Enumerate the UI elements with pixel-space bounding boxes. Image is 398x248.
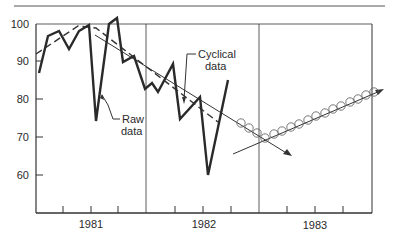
raw-data-label-line1: Raw: [122, 113, 144, 125]
raw-data-line: [39, 18, 228, 175]
forecast-circles: [237, 88, 378, 142]
rising-trend-arrowhead: [375, 89, 384, 95]
y-tick-label: 90: [17, 55, 29, 67]
cyclical-data-annotation: Cyclical data: [182, 48, 236, 104]
y-tick-label: 70: [17, 131, 29, 143]
rising-trend-line: [233, 91, 380, 154]
chart: 100 90 80 70 60 1981 1982 1983: [0, 0, 398, 248]
x-tick-label-1981: 1981: [79, 218, 103, 230]
x-tick-label-1982: 1982: [192, 218, 216, 230]
x-tick-label-1983: 1983: [303, 219, 327, 231]
cyclical-data-label-line1: Cyclical: [198, 48, 236, 60]
y-axis: [36, 61, 43, 175]
y-tick-label: 60: [17, 169, 29, 181]
y-tick-label: 100: [11, 18, 29, 30]
y-tick-label: 80: [17, 93, 29, 105]
y-tick-labels: 100 90 80 70 60: [11, 18, 29, 181]
cyclical-data-label-line2: data: [205, 60, 227, 72]
raw-data-label-line2: data: [121, 125, 143, 137]
declining-trend-arrowhead: [283, 149, 292, 156]
raw-data-annotation: Raw data: [100, 94, 144, 137]
x-tick-labels: 1981 1982 1983: [79, 218, 327, 231]
x-axis: [63, 206, 343, 213]
